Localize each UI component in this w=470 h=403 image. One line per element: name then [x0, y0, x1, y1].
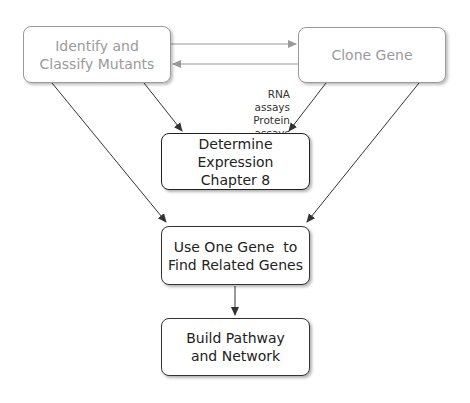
arrow-identify-to-use-one-gene: [52, 83, 166, 222]
arrow-clone-to-use-one-gene: [307, 83, 419, 222]
arrow-clone-to-determine: [289, 83, 326, 131]
node-label-line: Find Related Genes: [168, 256, 303, 274]
node-use-one-gene: Use One Gene to Find Related Genes: [161, 226, 310, 285]
node-build-pathway: Build Pathway and Network: [161, 318, 310, 376]
node-label-line: Build Pathway: [186, 329, 285, 347]
node-label-line: Expression: [198, 153, 274, 171]
node-label-line: Determine: [198, 135, 272, 153]
node-label-line: Chapter 8: [201, 171, 270, 189]
node-identify-classify-mutants: Identify and Classify Mutants: [23, 26, 171, 83]
annotation-line: RNA assays: [230, 88, 290, 114]
node-label-line: and Network: [191, 347, 280, 365]
node-label-line: Classify Mutants: [40, 55, 155, 73]
node-label-line: Identify and: [55, 37, 139, 55]
node-label-line: Clone Gene: [331, 46, 412, 64]
node-determine-expression: Determine Expression Chapter 8: [161, 133, 310, 190]
arrow-identify-to-determine: [144, 83, 182, 131]
node-label-line: Use One Gene to: [174, 238, 297, 256]
node-clone-gene: Clone Gene: [298, 27, 446, 83]
